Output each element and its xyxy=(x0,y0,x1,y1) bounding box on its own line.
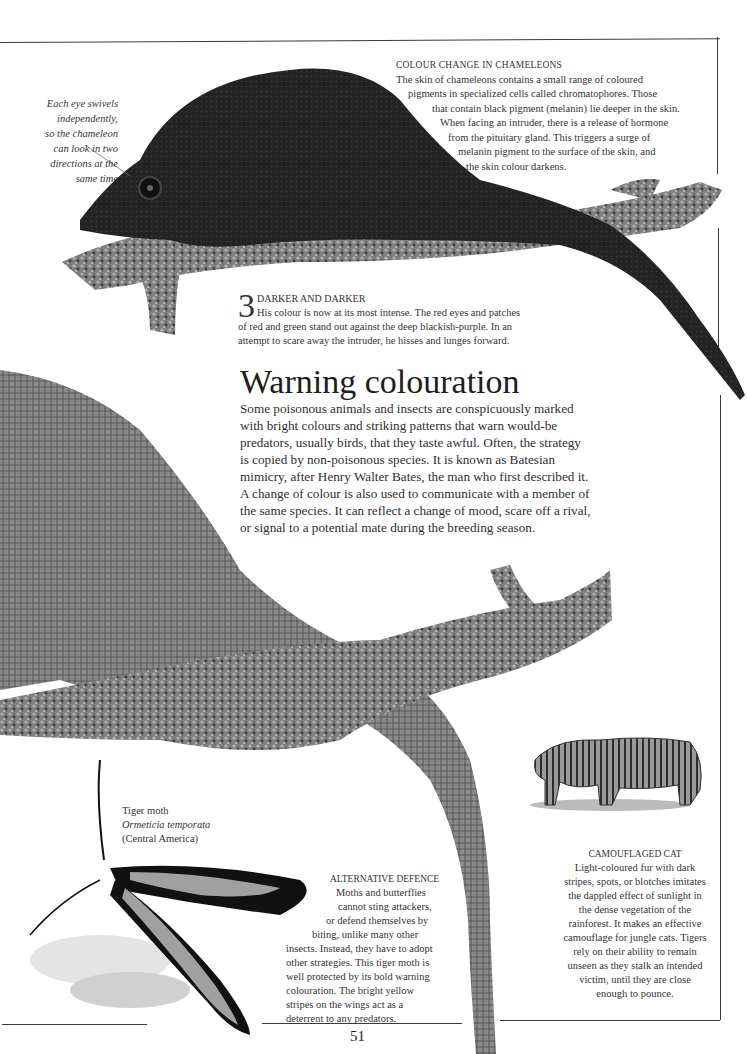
tiger-moth-label: Tiger moth Ormeticia temporata (Central … xyxy=(122,804,210,846)
caption-line: independently, xyxy=(0,111,118,126)
section-intro: Some poisonous animals and insects are c… xyxy=(240,400,720,536)
caption-line: from the pituitary gland. This triggers … xyxy=(370,131,726,146)
intro-line: with bright colours and striking pattern… xyxy=(240,417,720,434)
common-name: Tiger moth xyxy=(122,804,210,818)
caption-line: camouflage for jungle cats. Tigers xyxy=(535,931,735,945)
caption-line: Each eye swivels xyxy=(0,96,118,111)
intro-line: Some poisonous animals and insects are c… xyxy=(240,400,720,417)
caption-line: or defend themselves by xyxy=(286,914,466,928)
darker-and-darker-caption: 3 DARKER AND DARKER His colour is now at… xyxy=(238,292,648,348)
intro-line: or signal to a potential mate during the… xyxy=(240,519,720,536)
caption-line: Moths and butterflies xyxy=(286,886,466,900)
caption-line: rainforest. It makes an effective xyxy=(535,917,735,931)
caption-heading: CAMOUFLAGED CAT xyxy=(535,847,735,861)
caption-line: biting, unlike many other xyxy=(286,928,466,942)
section-title: Warning colouration xyxy=(240,362,520,402)
intro-line: mimicry, after Henry Walter Bates, the m… xyxy=(240,468,720,485)
page-number: 51 xyxy=(350,1028,365,1045)
step-number: 3 xyxy=(238,292,255,320)
intro-line: predators, usually birds, that they tast… xyxy=(240,434,720,451)
caption-line: can look in two xyxy=(0,141,118,156)
caption-line: victim, until they are close xyxy=(535,973,735,987)
caption-line: the dappled effect of sunlight in xyxy=(535,889,735,903)
caption-line: attempt to scare away the intruder, he h… xyxy=(238,334,648,348)
caption-line: so the chameleon xyxy=(0,126,118,141)
caption-line: the dense vegetation of the xyxy=(535,903,735,917)
caption-line: of red and green stand out against the d… xyxy=(238,320,648,334)
caption-line: well protected by its bold warning xyxy=(286,970,466,984)
caption-line: rely on their ability to remain xyxy=(535,945,735,959)
caption-line: stripes on the wings act as a xyxy=(286,998,466,1012)
caption-line: insects. Instead, they have to adopt xyxy=(286,942,466,956)
intro-line: the same species. It can reflect a chang… xyxy=(240,502,720,519)
caption-line: colouration. The bright yellow xyxy=(286,984,466,998)
intro-line: is copied by non-poisonous species. It i… xyxy=(240,451,720,468)
caption-line: that contain black pigment (melanin) lie… xyxy=(370,102,726,117)
caption-line: The skin of chameleons contains a small … xyxy=(370,73,726,88)
intro-line: A change of colour is also used to commu… xyxy=(240,485,720,502)
tiger-illustration xyxy=(530,738,701,811)
caption-line: same time xyxy=(0,171,118,186)
caption-line: pigments in specialized cells called chr… xyxy=(370,87,726,102)
caption-line: Light-coloured fur with dark xyxy=(535,861,735,875)
caption-line: other strategies. This tiger moth is xyxy=(286,956,466,970)
caption-heading: DARKER AND DARKER xyxy=(238,292,648,306)
caption-line: the skin colour darkens. xyxy=(370,160,726,175)
caption-line: deterrent to any predators. xyxy=(286,1012,466,1026)
caption-line: When facing an intruder, there is a rele… xyxy=(370,116,726,131)
caption-heading: ALTERNATIVE DEFENCE xyxy=(286,872,466,886)
caption-line: enough to pounce. xyxy=(535,987,735,1001)
scientific-name: Ormeticia temporata xyxy=(122,818,210,832)
caption-line: directions at the xyxy=(0,156,118,171)
caption-line: cannot sting attackers, xyxy=(286,900,466,914)
caption-line: stripes, spots, or blotches imitates xyxy=(535,875,735,889)
camouflaged-cat-caption: CAMOUFLAGED CAT Light-coloured fur with … xyxy=(535,847,735,1001)
caption-heading: COLOUR CHANGE IN CHAMELEONS xyxy=(370,58,726,73)
colour-change-caption: COLOUR CHANGE IN CHAMELEONS The skin of … xyxy=(370,58,726,174)
caption-line: His colour is now at its most intense. T… xyxy=(238,306,648,320)
caption-line: melanin pigment to the surface of the sk… xyxy=(370,145,726,160)
region: (Central America) xyxy=(122,832,210,846)
eye-swivel-caption: Each eye swivels independently, so the c… xyxy=(0,96,118,186)
caption-line: unseen as they stalk an intended xyxy=(535,959,735,973)
tiger-moth-illustration xyxy=(30,760,307,1035)
alternative-defence-caption: ALTERNATIVE DEFENCE Moths and butterflie… xyxy=(286,872,466,1026)
